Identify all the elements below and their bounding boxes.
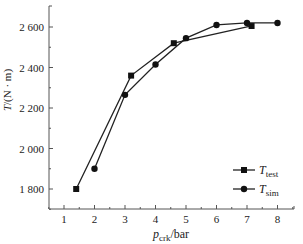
circle-marker <box>274 20 280 26</box>
x-tick-label: 1 <box>61 213 67 225</box>
plot-area <box>73 20 280 192</box>
y-tick-label: 2 600 <box>19 21 44 33</box>
legend-item-test: Ttest <box>233 163 279 179</box>
y-tick-label: 2 000 <box>19 143 44 155</box>
legend-circle-marker <box>241 186 247 192</box>
square-marker <box>128 73 134 79</box>
circle-marker <box>91 166 97 172</box>
y-tick-label: 2 400 <box>19 62 44 74</box>
x-tick-label: 7 <box>244 213 250 225</box>
square-marker <box>171 40 177 46</box>
y-axis-label: T/(N · m) <box>1 69 14 112</box>
x-tick-label: 6 <box>214 213 220 225</box>
line-chart: 1 8002 0002 2002 4002 60012345678 TtestT… <box>0 0 303 244</box>
legend-square-marker <box>241 167 247 173</box>
x-axis-label: pcrk/bar <box>152 227 189 243</box>
legend-label: Tsim <box>259 182 279 198</box>
x-tick-label: 4 <box>153 213 159 225</box>
x-tick-label: 5 <box>183 213 189 225</box>
x-tick-label: 3 <box>122 213 128 225</box>
axes: 1 8002 0002 2002 4002 60012345678 <box>19 6 294 225</box>
circle-marker <box>213 22 219 28</box>
circle-marker <box>183 35 189 41</box>
series-line <box>76 26 251 189</box>
x-tick-label: 2 <box>92 213 98 225</box>
circle-marker <box>244 20 250 26</box>
x-tick-label: 8 <box>275 213 281 225</box>
y-tick-label: 2 200 <box>19 102 44 114</box>
legend-label: Ttest <box>259 163 279 179</box>
square-marker <box>73 186 79 192</box>
circle-marker <box>122 92 128 98</box>
series-t-test <box>73 23 254 192</box>
y-tick-label: 1 800 <box>19 183 44 195</box>
circle-marker <box>152 61 158 67</box>
series-t-sim <box>91 20 280 172</box>
legend: TtestTsim <box>233 163 279 198</box>
legend-item-sim: Tsim <box>233 182 279 198</box>
chart-canvas: 1 8002 0002 2002 4002 60012345678 TtestT… <box>0 0 303 244</box>
